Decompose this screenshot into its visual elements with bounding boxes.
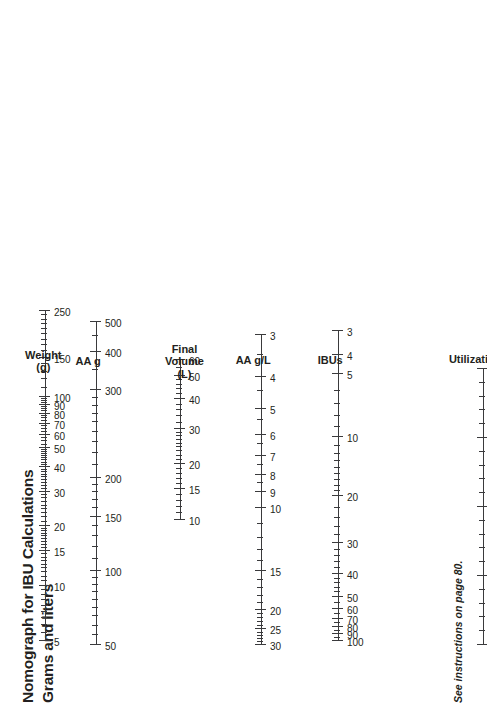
tick-minor <box>334 473 340 474</box>
tick-minor <box>41 474 47 475</box>
tick-minor <box>176 494 182 495</box>
tick-minor <box>41 547 47 548</box>
tick-minor <box>176 450 182 451</box>
tick-minor <box>479 465 485 466</box>
tick-minor <box>176 435 182 436</box>
tick-major <box>477 644 487 645</box>
tick-minor <box>41 415 47 416</box>
tick-minor <box>176 415 182 416</box>
tick-major <box>255 507 266 508</box>
tick-minor <box>479 492 485 493</box>
tick-label: 4 <box>347 345 358 351</box>
tick-minor <box>176 439 182 440</box>
tick-minor <box>92 413 98 414</box>
tick-minor <box>41 632 47 633</box>
tick-minor <box>479 547 485 548</box>
tick-minor <box>334 390 340 391</box>
tick-minor <box>92 584 98 585</box>
tick-minor <box>334 555 340 556</box>
tick-minor <box>479 561 485 562</box>
tick-major <box>39 423 50 424</box>
tick-minor <box>41 459 47 460</box>
tick-minor <box>257 523 263 524</box>
tick-minor <box>176 409 182 410</box>
tick-minor <box>176 404 182 405</box>
tick-minor <box>334 549 340 550</box>
tick-minor <box>41 567 47 568</box>
tick-major <box>332 542 343 543</box>
tick-minor <box>176 483 182 484</box>
tick-minor <box>92 441 98 442</box>
tick-minor <box>334 517 340 518</box>
tick-major <box>477 506 487 507</box>
tick-minor <box>479 630 485 631</box>
tick-minor <box>257 595 263 596</box>
tick-major <box>332 373 343 374</box>
tick-minor <box>176 393 182 394</box>
tick-minor <box>257 587 263 588</box>
tick-major <box>332 618 343 619</box>
tick-minor <box>479 409 485 410</box>
tick-minor <box>41 538 47 539</box>
tick-major <box>174 428 185 429</box>
tick-minor <box>41 541 47 542</box>
tick-minor <box>176 446 182 447</box>
tick-minor <box>479 451 485 452</box>
tick-minor <box>92 431 98 432</box>
tick-minor <box>41 544 47 545</box>
tick-label: 6 <box>270 425 281 431</box>
tick-major <box>39 434 50 435</box>
tick-major <box>477 437 487 438</box>
tick-minor <box>176 432 182 433</box>
tick-minor <box>41 328 47 329</box>
tick-minor <box>479 520 485 521</box>
tick-major <box>332 573 343 574</box>
tick-minor <box>92 499 98 500</box>
tick-minor <box>41 314 47 315</box>
tick-label: 30 <box>347 527 358 538</box>
tick-minor <box>41 576 47 577</box>
tick-minor <box>41 469 47 470</box>
tick-minor <box>41 420 47 421</box>
tick-minor <box>92 535 98 536</box>
tick-label: 10 <box>189 505 200 516</box>
tick-minor <box>41 398 47 399</box>
tick-label: 200 <box>105 457 116 474</box>
tick-label: 20 <box>54 511 65 522</box>
tick-minor <box>41 508 47 509</box>
tick-minor <box>41 479 47 480</box>
tick-minor <box>479 478 485 479</box>
tick-minor <box>92 452 98 453</box>
tick-label: 3 <box>270 325 281 331</box>
tick-minor <box>334 507 340 508</box>
tick-minor <box>41 476 47 477</box>
tick-major <box>90 351 101 352</box>
tick-major <box>332 626 343 627</box>
tick-major <box>255 644 266 645</box>
tick-minor <box>92 369 98 370</box>
tick-minor <box>41 400 47 401</box>
tick-minor <box>257 638 263 639</box>
tick-minor <box>257 537 263 538</box>
tick-minor <box>41 557 47 558</box>
tick-label: 40 <box>347 559 358 570</box>
tick-major <box>174 519 185 520</box>
tick-minor <box>334 490 340 491</box>
tick-minor <box>257 443 263 444</box>
tick-minor <box>41 617 47 618</box>
tick-major <box>477 575 487 576</box>
tick-minor <box>92 397 98 398</box>
tick-minor <box>41 437 47 438</box>
instructions-note: See instructions on page 80. <box>452 561 464 703</box>
tick-minor <box>41 444 47 445</box>
tick-minor <box>92 625 98 626</box>
tick-label: 40 <box>189 384 200 395</box>
tick-major <box>332 608 343 609</box>
tick-major <box>255 474 266 475</box>
tick-minor <box>41 425 47 426</box>
tick-minor <box>92 421 98 422</box>
tick-major <box>39 466 50 467</box>
tick-minor <box>41 410 47 411</box>
tick-minor <box>176 443 182 444</box>
tick-minor <box>257 390 263 391</box>
